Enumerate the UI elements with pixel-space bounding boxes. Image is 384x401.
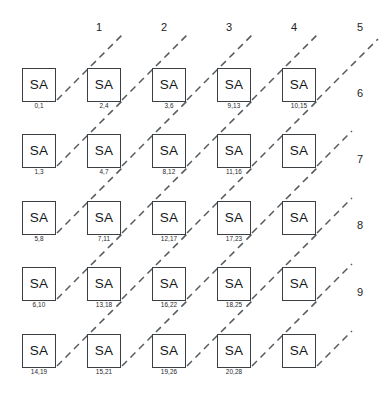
- sa-node[interactable]: SA4,7: [87, 134, 121, 168]
- sa-node-box[interactable]: SA: [87, 134, 121, 168]
- sa-node-box[interactable]: SA: [152, 201, 186, 235]
- diagonal-9e: [317, 331, 352, 366]
- diagonal-6e: [317, 131, 352, 166]
- sa-node-box[interactable]: SA: [87, 68, 121, 102]
- sa-node-caption: 0,1: [22, 103, 56, 109]
- sa-node-box[interactable]: SA: [152, 134, 186, 168]
- sa-node[interactable]: SA: [282, 201, 316, 235]
- sa-node-caption: 4,7: [87, 169, 121, 175]
- top-index-label: 2: [155, 22, 173, 33]
- top-index-label: 4: [285, 22, 303, 33]
- sa-node[interactable]: SA9,13: [217, 68, 251, 102]
- sa-grid-diagram: SA0,1SA2,4SA3,6SA9,13SA10,15SA1,3SA4,7SA…: [0, 0, 384, 401]
- sa-node[interactable]: SA19,26: [152, 334, 186, 368]
- sa-node[interactable]: SA16,22: [152, 267, 186, 301]
- sa-node[interactable]: SA11,16: [217, 134, 251, 168]
- right-index-label: 6: [351, 88, 369, 99]
- sa-node-caption: 10,15: [282, 103, 316, 109]
- sa-node-caption: 1,3: [22, 169, 56, 175]
- sa-node-box[interactable]: SA: [87, 201, 121, 235]
- sa-node-box[interactable]: SA: [282, 68, 316, 102]
- sa-node[interactable]: SA: [282, 334, 316, 368]
- top-index-label: 1: [90, 22, 108, 33]
- sa-node-caption: 12,17: [152, 236, 186, 242]
- sa-node-caption: 19,26: [152, 369, 186, 375]
- sa-node[interactable]: SA: [282, 267, 316, 301]
- sa-node-box[interactable]: SA: [22, 68, 56, 102]
- diagonal-7e: [317, 198, 352, 233]
- sa-node[interactable]: SA6,10: [22, 267, 56, 301]
- right-index-label: 7: [351, 154, 369, 165]
- sa-node-caption: 7,11: [87, 236, 121, 242]
- sa-node[interactable]: SA: [282, 134, 316, 168]
- sa-node[interactable]: SA1,3: [22, 134, 56, 168]
- sa-node-box[interactable]: SA: [217, 267, 251, 301]
- sa-node-caption: 3,6: [152, 103, 186, 109]
- sa-node[interactable]: SA5,8: [22, 201, 56, 235]
- sa-node-box[interactable]: SA: [217, 134, 251, 168]
- sa-node[interactable]: SA15,21: [87, 334, 121, 368]
- dashed-diagonal-layer: [0, 0, 384, 401]
- sa-node[interactable]: SA18,25: [217, 267, 251, 301]
- top-index-label: 5: [351, 22, 369, 33]
- sa-node-box[interactable]: SA: [152, 68, 186, 102]
- sa-node-box[interactable]: SA: [217, 201, 251, 235]
- sa-node-caption: 14,19: [22, 369, 56, 375]
- sa-node-caption: 11,16: [217, 169, 251, 175]
- sa-node[interactable]: SA17,23: [217, 201, 251, 235]
- sa-node-box[interactable]: SA: [87, 334, 121, 368]
- sa-node-box[interactable]: SA: [282, 267, 316, 301]
- sa-node-box[interactable]: SA: [282, 334, 316, 368]
- sa-node-caption: 15,21: [87, 369, 121, 375]
- sa-node-box[interactable]: SA: [282, 201, 316, 235]
- sa-node[interactable]: SA8,12: [152, 134, 186, 168]
- sa-node-caption: 9,13: [217, 103, 251, 109]
- sa-node-box[interactable]: SA: [22, 201, 56, 235]
- sa-node-box[interactable]: SA: [22, 334, 56, 368]
- sa-node[interactable]: SA0,1: [22, 68, 56, 102]
- sa-node-box[interactable]: SA: [87, 267, 121, 301]
- sa-node-box[interactable]: SA: [22, 134, 56, 168]
- sa-node-caption: 20,28: [217, 369, 251, 375]
- sa-node-box[interactable]: SA: [22, 267, 56, 301]
- sa-node-caption: 6,10: [22, 302, 56, 308]
- sa-node[interactable]: SA7,11: [87, 201, 121, 235]
- sa-node-box[interactable]: SA: [152, 267, 186, 301]
- sa-node-caption: 2,4: [87, 103, 121, 109]
- sa-node-box[interactable]: SA: [217, 68, 251, 102]
- sa-node[interactable]: SA20,28: [217, 334, 251, 368]
- sa-node-box[interactable]: SA: [217, 334, 251, 368]
- sa-node[interactable]: SA2,4: [87, 68, 121, 102]
- right-index-label: 9: [351, 287, 369, 298]
- sa-node-caption: 8,12: [152, 169, 186, 175]
- diagonal-8e: [317, 264, 352, 299]
- sa-node[interactable]: SA10,15: [282, 68, 316, 102]
- top-index-label: 3: [220, 22, 238, 33]
- sa-node-caption: 17,23: [217, 236, 251, 242]
- sa-node-caption: 18,25: [217, 302, 251, 308]
- sa-node-box[interactable]: SA: [282, 134, 316, 168]
- sa-node-caption: 16,22: [152, 302, 186, 308]
- sa-node-caption: 5,8: [22, 236, 56, 242]
- sa-node-caption: 13,18: [87, 302, 121, 308]
- sa-node[interactable]: SA13,18: [87, 267, 121, 301]
- sa-node[interactable]: SA12,17: [152, 201, 186, 235]
- sa-node[interactable]: SA3,6: [152, 68, 186, 102]
- sa-node[interactable]: SA14,19: [22, 334, 56, 368]
- sa-node-box[interactable]: SA: [152, 334, 186, 368]
- right-index-label: 8: [351, 220, 369, 231]
